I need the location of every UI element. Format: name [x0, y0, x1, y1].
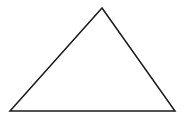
triangle-shape: [10, 8, 175, 111]
diagram-canvas: [0, 0, 188, 117]
